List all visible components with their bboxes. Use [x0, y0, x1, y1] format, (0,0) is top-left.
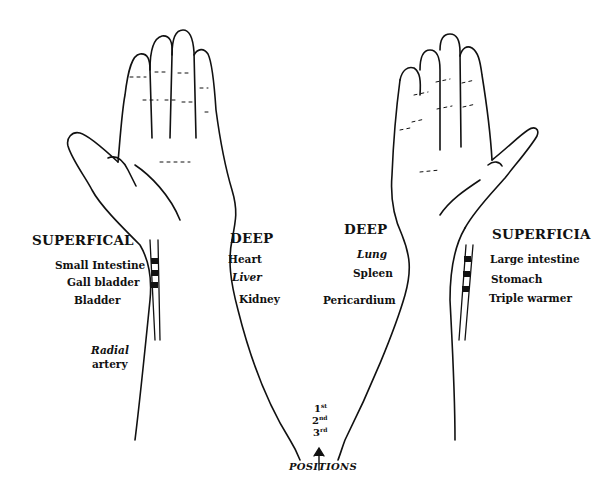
organ-lung: Lung: [357, 248, 387, 260]
radial-artery-label-line2: artery: [92, 358, 128, 370]
organ-kidney: Kidney: [239, 293, 280, 305]
organ-gall-bladder: Gall bladder: [67, 276, 139, 288]
positions-label: POSITIONS: [289, 461, 357, 472]
position-3-number: 3: [313, 427, 320, 438]
position-1-suffix: st: [321, 402, 327, 409]
hands-drawing: [0, 0, 606, 499]
position-2nd: 2nd: [312, 414, 328, 426]
left-superficial-heading: SUPERFICAL: [32, 232, 134, 248]
organ-large-intestine: Large intestine: [490, 253, 580, 265]
organ-spleen: Spleen: [353, 267, 393, 279]
position-3rd: 3rd: [313, 426, 327, 438]
position-1st: 1st: [314, 402, 327, 414]
position-1-number: 1: [314, 403, 321, 414]
organ-heart: Heart: [228, 253, 262, 265]
right-hand-outline: [338, 34, 538, 460]
left-pulse-markers: [151, 258, 158, 288]
organ-bladder: Bladder: [74, 294, 121, 306]
organ-stomach: Stomach: [491, 273, 542, 285]
position-2-number: 2: [312, 415, 319, 426]
position-3-suffix: rd: [320, 426, 327, 433]
organ-small-intestine: Small Intestine: [55, 259, 145, 271]
right-superficial-heading: SUPERFICIA: [492, 226, 591, 242]
organ-triple-warmer: Triple warmer: [489, 292, 572, 304]
radial-artery-label-line1: Radial: [91, 344, 129, 356]
organ-liver: Liver: [232, 271, 262, 283]
left-deep-heading: DEEP: [230, 230, 273, 246]
left-radial-artery: [150, 240, 160, 340]
right-deep-heading: DEEP: [344, 221, 387, 237]
organ-pericardium: Pericardium: [323, 294, 396, 306]
position-2-suffix: nd: [319, 414, 328, 421]
